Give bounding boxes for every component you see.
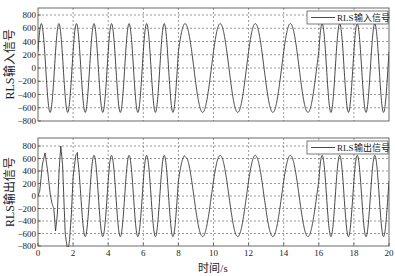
x-tick-label: 16 (314, 248, 324, 258)
y-tick-label: −200 (17, 204, 36, 214)
y-tick-label: 400 (23, 166, 37, 176)
output-y-axis-label: RLS输出信号 (2, 157, 17, 227)
y-tick-label: −600 (17, 229, 36, 239)
x-tick-label: 12 (244, 248, 253, 258)
x-tick-label: 18 (349, 248, 359, 258)
y-tick-label: −200 (17, 76, 36, 86)
y-tick-label: 800 (23, 141, 37, 151)
y-tick-label: 0 (32, 63, 37, 73)
y-tick-label: −800 (17, 116, 36, 126)
x-tick-label: 20 (385, 248, 395, 258)
x-tick-label: 0 (36, 248, 41, 258)
y-tick-label: 200 (23, 50, 37, 60)
x-tick-label: 8 (176, 248, 181, 258)
y-tick-label: −600 (17, 103, 36, 113)
output-legend: RLS输出信号 (307, 141, 390, 154)
y-tick-label: −400 (17, 90, 36, 100)
y-tick-label: 400 (23, 37, 37, 47)
y-tick-label: −800 (17, 241, 36, 251)
figure: −800−600−400−2000200400600800 RLS输入信号 RL… (0, 0, 395, 276)
x-tick-label: 4 (106, 248, 111, 258)
y-tick-label: 0 (32, 191, 37, 201)
y-tick-label: 200 (23, 179, 37, 189)
x-axis-label: 时间/s (198, 262, 227, 274)
x-tick-label: 14 (279, 248, 289, 258)
y-tick-label: 600 (23, 154, 37, 164)
x-tick-label: 2 (71, 248, 76, 258)
input-legend: RLS输入信号 (307, 11, 390, 24)
input-y-axis-label: RLS输入信号 (2, 29, 17, 99)
y-tick-label: 800 (23, 10, 37, 20)
x-tick-label: 6 (141, 248, 146, 258)
y-tick-label: −400 (17, 216, 36, 226)
input-legend-label: RLS输入信号 (337, 12, 390, 23)
x-tick-label: 10 (209, 248, 219, 258)
y-tick-label: 600 (23, 23, 37, 33)
output-legend-label: RLS输出信号 (337, 142, 390, 153)
